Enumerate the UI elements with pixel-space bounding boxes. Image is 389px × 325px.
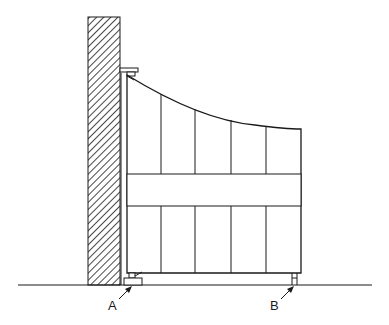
label-a: A	[108, 298, 117, 313]
top-bracket	[120, 68, 138, 80]
support-B	[292, 273, 297, 285]
gate-diagram: A B	[0, 0, 389, 325]
horizontal-rail	[127, 174, 301, 206]
hatched-wall	[88, 17, 120, 285]
leader-arrow-a	[119, 286, 132, 299]
pivot-A	[124, 272, 142, 285]
label-b: B	[270, 298, 279, 313]
leader-arrow-b	[281, 286, 294, 299]
